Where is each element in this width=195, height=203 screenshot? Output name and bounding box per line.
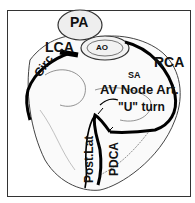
label-av-node-art: AV Node Art. <box>100 83 179 96</box>
label-sa: SA <box>128 71 141 80</box>
label-pa: PA <box>70 15 88 29</box>
label-rca: RCA <box>154 55 184 69</box>
label-ao: AO <box>96 44 108 52</box>
label-lca: LCA <box>45 40 74 54</box>
heart-diagram <box>0 0 195 203</box>
label-u-turn: "U" turn <box>118 101 165 113</box>
label-pdca: PDCA <box>108 142 120 176</box>
label-post-lat: Post.Lat <box>83 136 95 183</box>
